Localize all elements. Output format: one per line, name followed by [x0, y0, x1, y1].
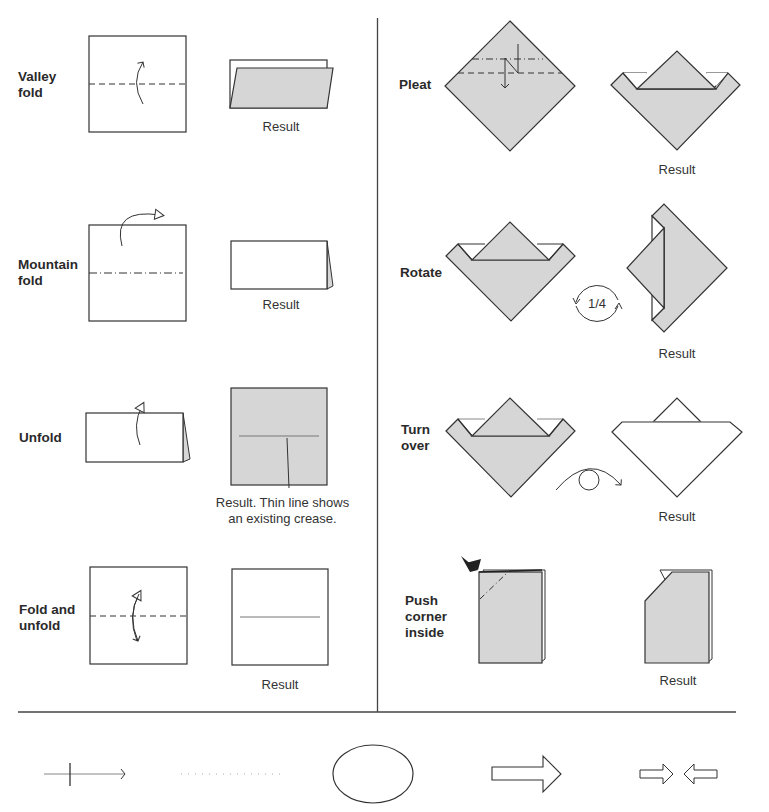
rotate-diagram — [446, 222, 575, 321]
mountain-fold-result — [231, 241, 333, 289]
rotate-quarter-text: 1/4 — [582, 296, 612, 312]
ellipse-symbol — [333, 745, 413, 803]
push-corner-result — [645, 570, 712, 663]
mountain-fold-diagram — [89, 214, 186, 321]
label-mountain-fold: Mountain fold — [18, 257, 78, 289]
label-valley-fold: Valley fold — [18, 69, 56, 101]
push-corner-diagram — [461, 556, 545, 663]
caption-rotate-result: Result — [647, 346, 707, 362]
label-fold-and-unfold: Fold and unfold — [19, 602, 75, 634]
push-together-arrows-symbol — [640, 764, 717, 784]
valley-fold-diagram — [89, 36, 186, 132]
caption-mountain-result: Result — [251, 297, 311, 313]
label-rotate: Rotate — [400, 265, 442, 281]
caption-turn-over-result: Result — [647, 509, 707, 525]
fold-and-unfold-result — [232, 569, 328, 665]
crease-line-tick-symbol — [44, 763, 125, 786]
turn-over-symbol — [556, 469, 621, 490]
hollow-arrow-symbol — [492, 756, 561, 792]
pleat-diagram — [445, 21, 575, 151]
rotate-result — [627, 204, 727, 332]
fold-key-diagram — [0, 0, 769, 812]
unfold-result — [231, 388, 327, 488]
caption-push-corner-result: Result — [648, 673, 708, 689]
turn-over-result — [612, 398, 742, 497]
caption-unfold-result: Result. Thin line shows an existing crea… — [205, 495, 360, 527]
caption-pleat-result: Result — [647, 162, 707, 178]
label-pleat: Pleat — [399, 77, 431, 93]
label-push-corner-inside: Push corner inside — [405, 593, 447, 641]
turn-over-diagram — [446, 398, 575, 497]
caption-fold-unfold-result: Result — [250, 677, 310, 693]
caption-valley-result: Result — [251, 119, 311, 135]
valley-fold-result — [230, 60, 333, 108]
fold-and-unfold-diagram — [90, 567, 187, 664]
label-unfold: Unfold — [19, 430, 62, 446]
label-turn-over: Turn over — [401, 422, 430, 454]
pleat-result — [611, 51, 740, 150]
unfold-diagram — [86, 406, 190, 462]
